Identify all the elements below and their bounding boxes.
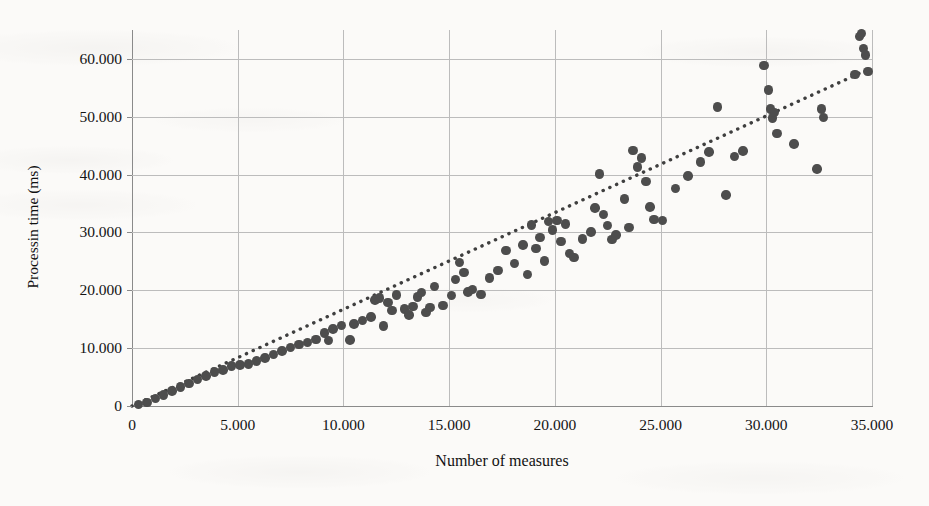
y-tick-label: 30.000	[79, 225, 122, 241]
y-axis-title: Processin time (ms)	[24, 62, 42, 392]
y-tick-label: 20.000	[79, 283, 122, 299]
scatter-chart-figure: 010.00020.00030.00040.00050.00060.000 Pr…	[0, 0, 929, 506]
data-point	[311, 335, 321, 345]
y-tick-mark	[127, 117, 132, 118]
data-point	[611, 230, 621, 240]
data-point	[812, 164, 822, 174]
data-point	[713, 102, 723, 112]
x-tick-label: 20.000	[534, 417, 577, 433]
data-point	[540, 256, 550, 266]
data-point	[366, 312, 376, 322]
x-tick-label: 5.000	[220, 417, 255, 433]
data-point	[759, 61, 769, 71]
y-tick-mark	[127, 348, 132, 349]
data-point	[392, 290, 402, 300]
data-point	[738, 146, 748, 156]
data-point	[586, 227, 596, 237]
data-point	[764, 85, 774, 95]
data-point	[628, 146, 638, 156]
data-point	[696, 157, 706, 167]
data-point	[641, 177, 651, 187]
x-tick-label: 35.000	[851, 417, 894, 433]
data-point	[518, 240, 528, 250]
data-point	[408, 302, 418, 312]
trendline	[132, 30, 872, 406]
data-point	[772, 129, 782, 139]
data-point	[624, 223, 634, 233]
x-tick-label: 30.000	[745, 417, 788, 433]
gridline-vertical	[872, 30, 873, 406]
data-point	[578, 234, 588, 244]
y-tick-mark	[127, 406, 132, 407]
data-point	[531, 244, 541, 254]
data-point	[683, 171, 693, 181]
data-point	[485, 273, 495, 283]
x-axis-title: Number of measures	[132, 452, 872, 470]
y-tick-label: 40.000	[79, 167, 122, 183]
x-axis-line	[132, 406, 873, 407]
y-tick-mark	[127, 290, 132, 291]
data-point	[561, 219, 571, 229]
data-point	[404, 310, 414, 320]
data-point	[459, 268, 469, 278]
data-point	[345, 335, 355, 345]
data-point	[590, 203, 600, 213]
data-point	[789, 139, 799, 149]
data-point	[850, 70, 860, 80]
y-tick-mark	[127, 175, 132, 176]
data-point	[704, 147, 714, 157]
data-point	[819, 113, 829, 123]
x-tick-label: 0	[128, 417, 136, 433]
data-point	[595, 169, 605, 179]
data-point	[620, 194, 630, 204]
data-point	[493, 266, 503, 276]
y-tick-label: 0	[114, 398, 122, 414]
data-point	[430, 282, 440, 292]
plot-area	[132, 30, 872, 406]
x-tick-label: 15.000	[428, 417, 471, 433]
data-point	[861, 50, 871, 60]
y-tick-label: 60.000	[79, 51, 122, 67]
data-point	[637, 153, 647, 163]
y-tick-label: 50.000	[79, 109, 122, 125]
data-point	[569, 253, 579, 263]
y-tick-label: 10.000	[79, 340, 122, 356]
data-point	[535, 233, 545, 243]
data-point	[476, 290, 486, 300]
x-tick-label: 25.000	[639, 417, 682, 433]
y-axis-tick-labels: 010.00020.00030.00040.00050.00060.000	[0, 0, 122, 506]
data-point	[633, 162, 643, 172]
data-point	[527, 220, 537, 230]
data-point	[863, 67, 873, 77]
data-point	[501, 246, 511, 256]
data-point	[721, 190, 731, 200]
data-point	[645, 202, 655, 212]
data-point	[387, 306, 397, 316]
x-tick-label: 10.000	[322, 417, 365, 433]
y-tick-mark	[127, 232, 132, 233]
y-tick-mark	[127, 59, 132, 60]
data-point	[438, 301, 448, 311]
